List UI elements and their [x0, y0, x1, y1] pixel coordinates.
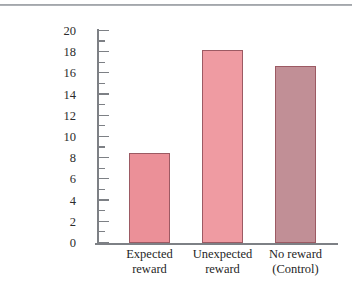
- y-tick-label: 2: [36, 216, 76, 228]
- x-category-label-line: Expected: [110, 247, 190, 262]
- x-category-label-line: No reward: [256, 247, 336, 262]
- y-tick-major: [98, 51, 109, 52]
- y-tick-minor: [98, 210, 105, 211]
- x-category-label-line: reward: [110, 262, 190, 277]
- x-category-label-0: Expectedreward: [110, 247, 190, 277]
- y-tick-major: [98, 93, 109, 94]
- y-tick-label: 6: [36, 173, 76, 185]
- y-tick-major: [98, 136, 109, 137]
- y-tick-minor: [98, 40, 105, 41]
- y-tick-minor: [98, 231, 105, 232]
- top-divider-rule: [0, 4, 352, 6]
- bar-2[interactable]: [275, 66, 316, 243]
- x-category-label-line: reward: [183, 262, 263, 277]
- x-category-label-2: No reward(Control): [256, 247, 336, 277]
- y-tick-major: [98, 221, 109, 222]
- bar-0[interactable]: [129, 153, 170, 243]
- y-tick-minor: [98, 104, 105, 105]
- y-tick-minor: [98, 189, 105, 190]
- y-tick-major: [98, 242, 109, 243]
- bar-1[interactable]: [202, 50, 243, 243]
- figure-chart-free-choice-time: FREE-CHOICE TIME USED FOR TARGET ACTIVIT…: [0, 0, 352, 282]
- y-tick-major: [98, 199, 109, 200]
- y-tick-minor: [98, 125, 105, 126]
- x-category-label-1: Unexpectedreward: [183, 247, 263, 277]
- y-tick-label: 0: [36, 237, 76, 249]
- y-tick-minor: [98, 168, 105, 169]
- y-tick-minor: [98, 62, 105, 63]
- x-axis-line: [95, 243, 338, 245]
- y-tick-major: [98, 178, 109, 179]
- y-tick-major: [98, 72, 109, 73]
- y-tick-label: 4: [36, 195, 76, 207]
- plot-area: 02468101214161820 ExpectedrewardUnexpect…: [97, 31, 338, 243]
- y-tick-major: [98, 157, 109, 158]
- y-tick-minor: [98, 146, 105, 147]
- y-tick-major: [98, 30, 109, 31]
- y-tick-label: 16: [36, 67, 76, 79]
- x-category-label-line: (Control): [256, 262, 336, 277]
- y-tick-label: 8: [36, 152, 76, 164]
- y-tick-label: 12: [36, 110, 76, 122]
- y-tick-minor: [98, 83, 105, 84]
- y-tick-label: 18: [36, 46, 76, 58]
- y-tick-major: [98, 115, 109, 116]
- y-tick-label: 10: [36, 131, 76, 143]
- x-category-label-line: Unexpected: [183, 247, 263, 262]
- y-tick-label: 14: [36, 89, 76, 101]
- y-tick-label: 20: [36, 25, 76, 37]
